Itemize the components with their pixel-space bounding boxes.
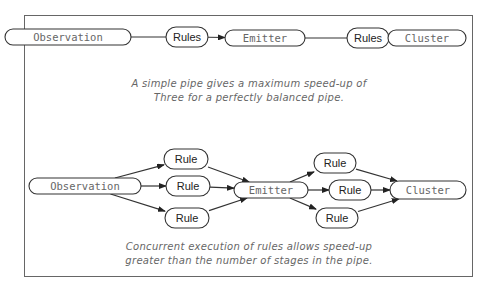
node-rules-rules1: Rules bbox=[166, 27, 208, 47]
node-observation-obs2: Observation bbox=[29, 178, 141, 194]
node-observation-obs1: Observation bbox=[5, 29, 131, 45]
node-rule-r1a: Rule bbox=[164, 149, 208, 169]
arrow-r1c-to-emit2 bbox=[209, 198, 247, 211]
node-label: Rule bbox=[339, 184, 362, 196]
arrow-r2c-to-clus2 bbox=[358, 199, 399, 212]
arrow-r1a-to-emit2 bbox=[208, 167, 249, 182]
top-caption: A simple pipe gives a maximum speed-up o… bbox=[0, 77, 498, 105]
node-rule-r2a: Rule bbox=[314, 153, 356, 173]
node-cluster-clus1: Cluster bbox=[388, 30, 466, 46]
bottom-caption-line-1: Concurrent execution of rules allows spe… bbox=[0, 240, 498, 254]
node-rule-r1b: Rule bbox=[166, 176, 210, 196]
node-emitter-emit2: Emitter bbox=[234, 182, 308, 198]
node-label: Rule bbox=[177, 180, 200, 192]
arrow-emit2-to-r2a bbox=[290, 172, 314, 182]
node-label: Cluster bbox=[405, 32, 449, 44]
node-label: Observation bbox=[50, 180, 120, 192]
node-rule-r1c: Rule bbox=[165, 208, 209, 228]
bottom-caption-line-2: greater than the number of stages in the… bbox=[0, 254, 498, 268]
bottom-caption: Concurrent execution of rules allows spe… bbox=[0, 240, 498, 268]
arrow-emit2-to-r2c bbox=[290, 198, 316, 209]
node-label: Emitter bbox=[243, 32, 287, 44]
node-rule-r2c: Rule bbox=[316, 208, 358, 228]
top-caption-line-2: Three for a perfectly balanced pipe. bbox=[0, 91, 498, 105]
arrow-r1b-to-emit2 bbox=[210, 187, 234, 188]
node-label: Cluster bbox=[406, 184, 450, 196]
arrow-obs2-to-r1a bbox=[115, 165, 164, 178]
node-emitter-emit1: Emitter bbox=[225, 30, 305, 46]
node-label: Rules bbox=[173, 31, 202, 43]
node-label: Rule bbox=[176, 212, 199, 224]
node-label: Rules bbox=[354, 32, 383, 44]
arrow-r2a-to-clus2 bbox=[356, 169, 397, 181]
node-label: Observation bbox=[33, 31, 103, 43]
node-label: Rule bbox=[324, 157, 347, 169]
node-label: Rule bbox=[326, 212, 349, 224]
node-rule-r2b: Rule bbox=[329, 180, 371, 200]
node-label: Emitter bbox=[249, 184, 293, 196]
node-cluster-clus2: Cluster bbox=[390, 181, 466, 199]
node-rules-rules2: Rules bbox=[347, 28, 389, 48]
node-label: Rule bbox=[175, 153, 198, 165]
arrow-obs2-to-r1c bbox=[111, 194, 166, 211]
top-caption-line-1: A simple pipe gives a maximum speed-up o… bbox=[0, 77, 498, 91]
